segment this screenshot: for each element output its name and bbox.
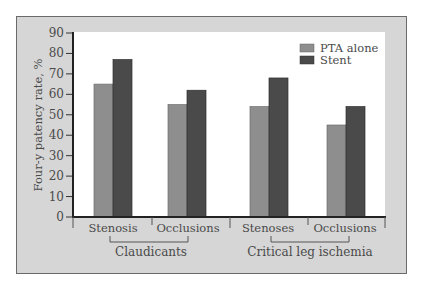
y-tick-label: 10 xyxy=(49,190,64,204)
bracket-claudicants xyxy=(110,236,188,242)
y-axis-label: Four-y patency rate, % xyxy=(31,58,45,191)
legend-swatch-pta xyxy=(300,44,314,52)
bar-stent xyxy=(113,60,132,217)
y-tick-label: 90 xyxy=(49,26,64,40)
category-label-occlusions-cli: Occlusions xyxy=(313,221,376,235)
category-label-stenoses: Stenoses xyxy=(242,221,294,235)
y-tick-label: 80 xyxy=(49,46,64,60)
y-tick-label: 50 xyxy=(49,108,64,122)
chart-svg: Four-y patency rate, % 01020304050607080… xyxy=(0,0,424,285)
group-label-critical-leg-ischemia: Critical leg ischemia xyxy=(247,245,372,259)
y-tick-label: 0 xyxy=(56,210,64,224)
y-tick-label: 20 xyxy=(49,169,64,183)
bar-stent xyxy=(269,78,288,217)
y-tick-label: 30 xyxy=(49,149,64,163)
y-tick-label: 70 xyxy=(49,67,64,81)
legend-swatch-stent xyxy=(300,56,314,64)
bar-pta xyxy=(94,84,113,217)
y-tick-label: 60 xyxy=(49,87,64,101)
legend: PTA alone Stent xyxy=(300,41,379,67)
y-tick-label: 40 xyxy=(49,128,64,142)
bracket-critical-leg-ischemia xyxy=(271,236,349,242)
category-label-occlusions-claudicants: Occlusions xyxy=(156,221,219,235)
bar-stent xyxy=(346,107,365,217)
legend-label-stent: Stent xyxy=(320,53,352,67)
group-label-claudicants: Claudicants xyxy=(115,245,187,259)
bar-pta xyxy=(168,105,187,217)
bars xyxy=(94,60,365,217)
y-axis-ticks: 0102030405060708090 xyxy=(49,26,73,224)
bar-stent xyxy=(187,90,206,217)
bar-pta xyxy=(327,125,346,217)
bar-pta xyxy=(250,107,269,217)
category-label-stenosis: Stenosis xyxy=(88,221,137,235)
